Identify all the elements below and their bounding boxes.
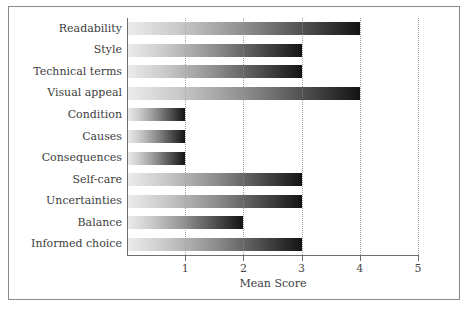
gridline-overlay-2: [243, 18, 244, 255]
x-tick-label: 1: [170, 262, 200, 275]
bar: [127, 173, 302, 186]
category-label: Causes: [2, 130, 122, 143]
bar: [127, 65, 302, 78]
category-axis-labels: ReadabilityStyleTechnical termsVisual ap…: [0, 18, 122, 255]
category-label: Self-care: [2, 173, 122, 186]
bar: [127, 44, 302, 57]
plot-area: [127, 18, 418, 255]
x-axis-line: [127, 255, 419, 256]
category-label: Consequences: [2, 151, 122, 164]
category-label: Uncertainties: [2, 194, 122, 207]
x-tick: [185, 256, 186, 261]
x-tick-label: 3: [287, 262, 317, 275]
category-label: Informed choice: [2, 237, 122, 250]
category-label: Technical terms: [2, 65, 122, 78]
category-label: Visual appeal: [2, 86, 122, 99]
x-axis-title: Mean Score: [127, 277, 419, 290]
bar: [127, 195, 302, 208]
x-tick-label: 2: [228, 262, 258, 275]
category-label: Style: [2, 43, 122, 56]
x-tick-label: 4: [345, 262, 375, 275]
gridline-overlay-3: [302, 18, 303, 255]
category-label: Condition: [2, 108, 122, 121]
bar: [127, 130, 185, 143]
x-tick-label: 5: [403, 262, 433, 275]
x-tick: [243, 256, 244, 261]
x-tick: [302, 256, 303, 261]
gridline-overlay-1: [185, 18, 186, 255]
x-tick: [360, 256, 361, 261]
category-label: Readability: [2, 22, 122, 35]
gridline-overlay-5: [418, 18, 419, 255]
gridline-overlay-4: [360, 18, 361, 255]
bar: [127, 152, 185, 165]
x-tick: [418, 256, 419, 261]
chart-figure: ReadabilityStyleTechnical termsVisual ap…: [0, 0, 471, 311]
bar: [127, 108, 185, 121]
bar: [127, 238, 302, 251]
category-label: Balance: [2, 216, 122, 229]
y-axis-line: [127, 18, 128, 256]
